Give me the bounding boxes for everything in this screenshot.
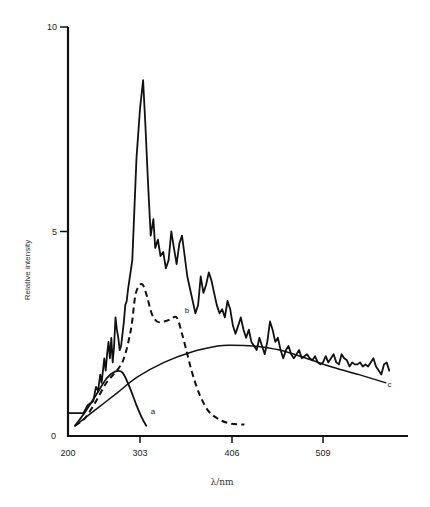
y-tick-label: 5	[52, 227, 57, 237]
x-tick-label: 406	[224, 448, 239, 458]
series-group	[68, 80, 389, 426]
series-line-c	[75, 345, 386, 426]
series-line-b	[75, 284, 244, 426]
series-line-measured-spectrum	[68, 80, 389, 413]
curve-label-c: c	[387, 380, 391, 389]
y-ticks: 0510	[47, 22, 68, 441]
curve-label-b: b	[185, 306, 190, 315]
x-axis-label: λ/nm	[210, 477, 234, 487]
x-tick-label: 303	[132, 448, 147, 458]
y-axis-label: Relative intensity	[23, 240, 32, 300]
y-tick-label: 0	[51, 431, 56, 441]
x-ticks: 200303406509	[60, 436, 330, 458]
curve-label-a: a	[151, 407, 156, 416]
chart-svg: 0510 200303406509 abc Relative intensity…	[0, 0, 430, 507]
axes	[67, 27, 408, 437]
x-tick-label: 200	[60, 448, 75, 458]
y-tick-label: 10	[47, 22, 57, 32]
x-tick-label: 509	[315, 448, 330, 458]
